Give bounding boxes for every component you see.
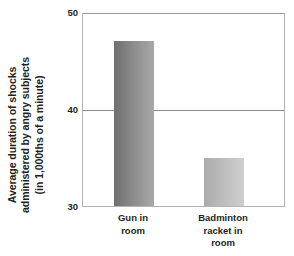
x-tick-label-badminton-racket-in-room-line-1: Badminton <box>173 212 273 225</box>
bar-badminton-racket-in-room <box>204 158 244 207</box>
x-tick-label-gun-in-room-line-2: room <box>83 225 183 238</box>
x-tick-label-gun-in-room: Gun in room <box>83 212 183 237</box>
y-axis-title-line-3: (in 1,000ths of a minute) <box>33 76 47 195</box>
bar-chart: Average duration of shocks administered … <box>0 0 294 256</box>
y-axis-title-line-2: administered by angry subjects <box>19 57 33 213</box>
bar-badminton-racket-in-room-fill <box>204 158 244 207</box>
y-tick-label-30: 30 <box>38 202 78 212</box>
y-tick-label-40: 40 <box>38 105 78 115</box>
y-axis-title-line-1: Average duration of shocks <box>6 67 20 204</box>
y-tick-label-50: 50 <box>38 8 78 18</box>
x-tick-label-badminton-racket-in-room-line-3: room <box>173 237 273 250</box>
x-tick-label-badminton-racket-in-room: Badminton racket in room <box>173 212 273 250</box>
x-tick-label-badminton-racket-in-room-line-2: racket in <box>173 225 273 238</box>
x-tick-label-gun-in-room-line-1: Gun in <box>83 212 183 225</box>
plot-area <box>82 13 285 207</box>
bar-gun-in-room-fill <box>114 41 154 206</box>
bar-gun-in-room <box>114 41 154 206</box>
